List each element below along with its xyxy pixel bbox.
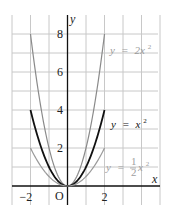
y-tick-label: 4	[57, 103, 63, 117]
y-tick-label: 6	[57, 65, 63, 79]
x-tick-label: 2	[102, 190, 108, 204]
label-eq: =	[122, 44, 128, 56]
y-tick-label: 8	[57, 27, 63, 41]
y-axis-label: y	[69, 12, 76, 26]
parabola-chart: x y O −222468 y = 2x 2 y = x 2 y = 1 2 x…	[0, 0, 170, 218]
origin-label: O	[55, 189, 64, 203]
label-x-squared: y = x 2	[110, 117, 147, 130]
label-eq: =	[123, 118, 129, 130]
label-2x-squared: y = 2x 2	[109, 43, 152, 56]
label-lhs: y	[109, 44, 115, 56]
svg-text:x 2: x 2	[137, 160, 150, 173]
label-lhs: y	[105, 161, 111, 173]
label-sup: 2	[143, 117, 147, 125]
label-eq: =	[118, 161, 124, 173]
label-rhs: x	[135, 118, 141, 130]
label-lhs: y	[110, 118, 116, 130]
x-tick-label: −2	[20, 190, 33, 204]
label-fraction-den: 2	[131, 166, 137, 178]
label-sup: 2	[148, 43, 152, 51]
y-tick-label: 2	[57, 141, 63, 155]
x-axis-label: x	[151, 172, 158, 186]
label-sup: 2	[146, 160, 150, 168]
label-rhs: 2x	[135, 44, 146, 56]
label-rhs: x	[137, 161, 143, 173]
